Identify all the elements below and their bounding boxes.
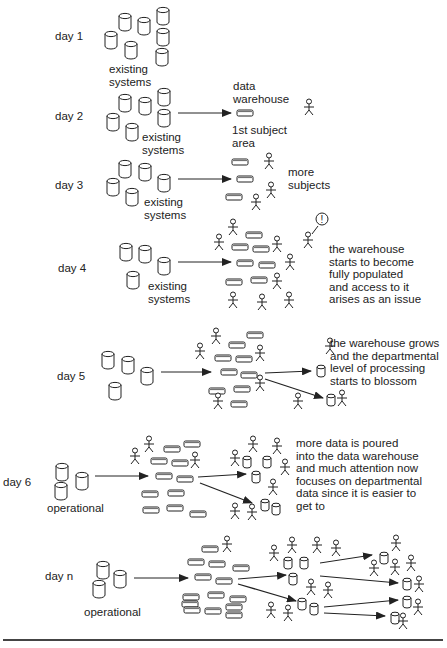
note-day5: the warehouse grows and the departmental… bbox=[330, 337, 439, 387]
day-label-5: day 5 bbox=[57, 370, 85, 382]
source-label-day2: existing systems bbox=[142, 131, 184, 156]
day-label-4: day 4 bbox=[58, 262, 86, 274]
first-subject-area-label: 1st subject area bbox=[232, 124, 287, 149]
note-day3: more subjects bbox=[288, 166, 330, 191]
stage-day3 bbox=[107, 153, 276, 210]
source-label-day6: operational bbox=[47, 502, 104, 515]
note-day6: more data is poured into the data wareho… bbox=[296, 437, 422, 512]
stage-day1 bbox=[105, 7, 169, 66]
note-day4: the warehouse starts to become fully pop… bbox=[329, 243, 421, 306]
data-warehouse-label: data warehouse bbox=[233, 80, 289, 105]
stage-day5 bbox=[102, 328, 347, 409]
stage-dayn bbox=[93, 535, 424, 629]
callout-exclamation: ! bbox=[321, 214, 324, 225]
day-label-2: day 2 bbox=[55, 110, 83, 122]
bottom-divider bbox=[3, 639, 443, 641]
source-label-day3: existing systems bbox=[144, 196, 186, 221]
source-label-dayn: operational bbox=[84, 606, 141, 619]
source-label-day1: existing systems bbox=[109, 63, 151, 88]
day-label-1: day 1 bbox=[55, 30, 83, 42]
source-label-day4: existing systems bbox=[148, 280, 190, 305]
day-label-3: day 3 bbox=[55, 179, 83, 191]
evolution-diagram: ! bbox=[0, 0, 447, 648]
day-label-6: day 6 bbox=[3, 476, 31, 488]
day-label-n: day n bbox=[45, 570, 73, 582]
